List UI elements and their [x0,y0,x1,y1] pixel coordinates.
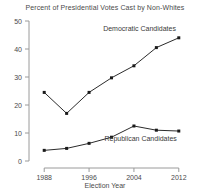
x-axis: 1988199620042012 [36,168,186,181]
y-tick-label: 0 [18,158,22,165]
series-marker [110,76,113,79]
y-tick-label: 30 [14,74,22,81]
chart-container: Percent of Presidential Votes Cast by No… [0,0,210,190]
x-tick-label: 1996 [81,174,97,181]
series-annotations: Democratic CandidatesRepublican Candidat… [103,25,177,143]
series-marker [88,91,91,94]
series-marker [155,129,158,132]
series-marker [43,149,46,152]
y-axis: 01020304050 [14,18,29,165]
series-marker [132,64,135,67]
x-axis-title: Election Year [85,182,127,189]
x-tick-label: 2012 [171,174,187,181]
x-tick-label: 1988 [36,174,52,181]
series-label: Republican Candidates [104,135,177,143]
y-tick-label: 50 [14,18,22,25]
y-tick-label: 20 [14,102,22,109]
y-tick-label: 10 [14,130,22,137]
series-marker [155,46,158,49]
series-marker [65,112,68,115]
x-tick-label: 2004 [126,174,142,181]
series-label: Democratic Candidates [103,25,176,32]
series-marker [88,142,91,145]
series-line [44,38,179,114]
series-marker [177,36,180,39]
series-marker [65,147,68,150]
y-tick-label: 40 [14,46,22,53]
series-marker [132,125,135,128]
series-marker [43,91,46,94]
series-marker [177,130,180,133]
chart-plot-area: 01020304050 1988199620042012 Democratic … [0,0,210,190]
